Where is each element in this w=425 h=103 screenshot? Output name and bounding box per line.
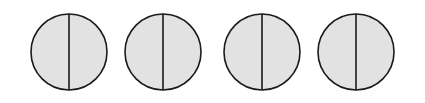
circle-1 [31, 14, 107, 90]
circle-2 [125, 14, 201, 90]
circle-3 [224, 14, 300, 90]
circle-4 [318, 14, 394, 90]
fraction-circles-diagram [0, 0, 425, 103]
